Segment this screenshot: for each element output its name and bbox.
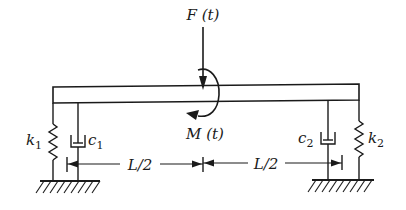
left-damper <box>71 103 85 181</box>
damper-c1-label: c1 <box>88 131 103 152</box>
right-ground <box>308 180 374 192</box>
damper-c2-label: c2 <box>298 129 313 150</box>
left-ground <box>36 181 100 193</box>
right-spring <box>355 100 363 180</box>
moment-label: M (t) <box>185 125 224 143</box>
spring-k1-label: k1 <box>26 131 42 152</box>
force-arrow <box>199 27 207 90</box>
dimension-right-label: L/2 <box>253 155 279 173</box>
beam-diagram: F (t) M (t) k1 c1 <box>0 0 406 210</box>
force-label: F (t) <box>186 6 220 24</box>
spring-k2-label: k2 <box>368 129 384 150</box>
beam <box>53 84 359 103</box>
right-damper <box>321 100 335 180</box>
dimension-left-label: L/2 <box>127 156 153 174</box>
left-spring <box>49 103 57 181</box>
dimension-line <box>67 155 342 172</box>
